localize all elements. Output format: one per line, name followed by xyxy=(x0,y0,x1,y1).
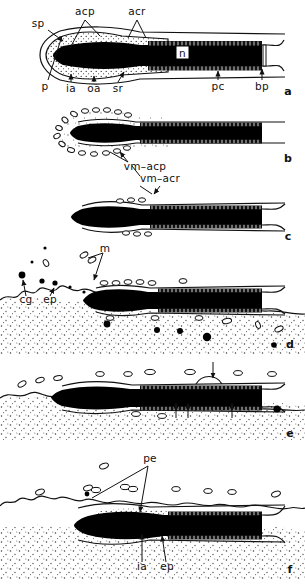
plasma-membrane-d xyxy=(96,285,285,288)
panel-letter-b: b xyxy=(284,152,292,165)
label-pc: pc xyxy=(211,80,224,92)
striated-band-bottom-c xyxy=(150,225,262,229)
panel-letter-e: e xyxy=(286,427,293,440)
tail-top-e xyxy=(262,384,285,389)
label-n: n xyxy=(179,47,186,59)
granules-f xyxy=(85,492,90,497)
striated-band-top-c xyxy=(150,206,262,210)
label-acr: acr xyxy=(128,5,146,17)
diagram-svg: sp acp acr p ia oa sr n pc bp a xyxy=(0,0,305,586)
panel-b: vm–acp vm–acr b xyxy=(53,108,292,184)
tail-top-d xyxy=(262,287,285,292)
posterior-cap-bottom-a xyxy=(148,66,262,71)
nucleus-f xyxy=(74,512,262,540)
nucleus-d xyxy=(83,289,262,311)
granules-e xyxy=(273,405,280,412)
tail-top-c xyxy=(262,204,285,209)
label-ep-f: ep xyxy=(160,560,174,572)
leader-vm-acr-c xyxy=(140,186,160,194)
plasma-membrane-f xyxy=(78,504,285,508)
membrane-bleb-e xyxy=(196,377,222,385)
panel-c: c xyxy=(71,186,291,243)
panel-letter-c: c xyxy=(285,230,292,243)
nucleus-e xyxy=(51,387,262,410)
vesicles-f xyxy=(35,462,281,498)
panel-d: m cg ep d xyxy=(0,242,305,355)
plasma-membrane-c xyxy=(82,202,285,206)
label-ia: ia xyxy=(66,82,76,94)
leader-acr xyxy=(128,20,146,38)
panel-e: e xyxy=(0,362,305,440)
label-sr: sr xyxy=(113,82,124,94)
label-sp: sp xyxy=(32,17,45,29)
label-ep-d: ep xyxy=(43,293,57,305)
basal-plate-a xyxy=(263,45,266,66)
label-p: p xyxy=(42,80,49,92)
plasma-membrane-lower-c xyxy=(82,228,285,232)
label-m: m xyxy=(100,242,111,254)
panel-letter-d: d xyxy=(286,338,294,351)
striated-band-top-d xyxy=(158,289,262,293)
panel-f: pe ia ep f xyxy=(0,452,305,580)
label-acp: acp xyxy=(75,5,95,17)
panel-letter-f: f xyxy=(288,563,293,576)
nucleus-c xyxy=(71,206,262,227)
label-vm-acp: vm–acp xyxy=(124,160,166,172)
plasma-membrane-e xyxy=(62,382,285,386)
figure-canvas: sp acp acr p ia oa sr n pc bp a xyxy=(0,0,305,586)
label-vm-acr: vm–acr xyxy=(140,172,180,184)
panel-letter-a: a xyxy=(284,85,291,98)
label-cg: cg xyxy=(19,293,32,305)
tail-bottom-c xyxy=(262,225,285,230)
panel-a: sp acp acr p ia oa sr n pc bp a xyxy=(32,5,292,98)
label-bp: bp xyxy=(255,80,269,92)
posterior-cap-top-a xyxy=(148,41,262,46)
label-pe: pe xyxy=(143,452,157,464)
striated-band-bottom-d xyxy=(158,309,262,313)
label-oa: oa xyxy=(87,82,100,94)
label-ia-f: ia xyxy=(137,560,147,572)
nucleus-a xyxy=(53,42,262,69)
